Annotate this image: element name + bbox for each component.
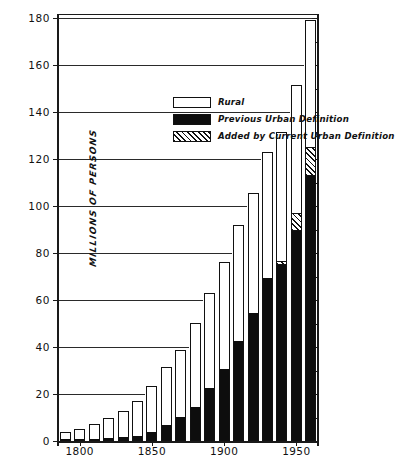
bar-segment-previous-urban-1860: [162, 425, 171, 440]
bar-1960: [305, 20, 316, 441]
gridline-100: [58, 206, 247, 207]
y-tick-label-40: 40: [35, 341, 50, 353]
bar-segment-previous-urban-1840: [133, 436, 142, 440]
bar-1830: [118, 411, 129, 441]
bar-segment-previous-urban-1960: [306, 176, 315, 440]
previous-urban-swatch: [173, 114, 211, 125]
bar-segment-previous-urban-1810: [90, 439, 99, 440]
y-axis-title: MILLIONS OF PERSONS: [88, 128, 98, 267]
legend-item-added-urban: Added by Current Urban Definition: [173, 129, 345, 143]
gridline-180: [58, 18, 318, 19]
y-tick-mark-140: [53, 112, 59, 113]
x-tick-mark-1800: [80, 442, 81, 446]
bar-segment-previous-urban-1790: [61, 439, 70, 440]
y-tick-mark-0: [53, 441, 59, 442]
bar-segment-previous-urban-1920: [249, 313, 258, 440]
rural-swatch: [173, 97, 211, 108]
bar-segment-previous-urban-1900: [220, 369, 229, 440]
bar-segment-previous-urban-1850: [147, 432, 156, 440]
bar-segment-added-urban-1950: [292, 213, 301, 231]
bar-1910: [233, 225, 244, 441]
bar-1920: [248, 193, 259, 441]
bar-1810: [89, 424, 100, 441]
x-tick-label-1900: 1900: [210, 445, 238, 457]
x-tick-mark-1850: [152, 442, 153, 446]
bar-1800: [74, 429, 85, 441]
x-tick-mark-1950: [296, 442, 297, 446]
added-urban-swatch: [173, 131, 211, 142]
y-tick-label-0: 0: [43, 435, 50, 447]
bar-segment-previous-urban-1820: [104, 438, 113, 440]
chart-legend: Rural Previous Urban Definition Added by…: [173, 95, 345, 146]
bar-segment-previous-urban-1890: [205, 388, 214, 440]
x-tick-label-1800: 1800: [65, 445, 93, 457]
plot-area: 020406080100120140160180 180018501900195…: [58, 18, 318, 442]
y-tick-label-120: 120: [28, 153, 50, 165]
y-tick-mark-20: [53, 394, 59, 395]
legend-item-rural: Rural: [173, 95, 345, 109]
top-axis-line: [57, 14, 318, 15]
gridline-60: [58, 300, 203, 301]
bar-1790: [60, 432, 71, 441]
bar-segment-previous-urban-1830: [119, 437, 128, 440]
bar-segment-previous-urban-1870: [176, 417, 185, 440]
y-tick-mark-100: [53, 206, 59, 207]
y-tick-mark-180: [53, 18, 59, 19]
y-tick-mark-60: [53, 300, 59, 301]
gridline-160: [58, 65, 304, 66]
bar-segment-added-urban-1940: [277, 261, 286, 265]
bar-segment-added-urban-1960: [306, 147, 315, 175]
bar-segment-previous-urban-1800: [75, 439, 84, 440]
bar-segment-previous-urban-1930: [263, 278, 272, 440]
y-tick-label-140: 140: [28, 106, 50, 118]
y-tick-label-60: 60: [35, 294, 50, 306]
legend-item-previous-urban: Previous Urban Definition: [173, 112, 345, 126]
bar-segment-previous-urban-1950: [292, 231, 301, 440]
legend-label-rural: Rural: [218, 97, 245, 107]
bar-segment-previous-urban-1880: [191, 407, 200, 440]
x-tick-label-1950: 1950: [282, 445, 310, 457]
y-tick-label-160: 160: [28, 59, 50, 71]
bar-1930: [262, 152, 273, 441]
y-tick-label-80: 80: [35, 247, 50, 259]
y-tick-label-180: 180: [28, 12, 50, 24]
gridline-80: [58, 253, 232, 254]
gridline-40: [58, 347, 189, 348]
bar-1870: [175, 350, 186, 441]
gridline-20: [58, 394, 145, 395]
bar-segment-previous-urban-1910: [234, 341, 243, 440]
legend-label-added-urban: Added by Current Urban Definition: [218, 131, 395, 141]
bar-1880: [190, 323, 201, 441]
x-tick-mark-1900: [224, 442, 225, 446]
bar-1890: [204, 293, 215, 441]
bar-1840: [132, 401, 143, 441]
y-tick-mark-160: [53, 65, 59, 66]
y-tick-label-20: 20: [35, 388, 50, 400]
bar-1900: [219, 262, 230, 441]
legend-label-previous-urban: Previous Urban Definition: [218, 114, 349, 124]
x-tick-label-1850: 1850: [138, 445, 166, 457]
bar-1820: [103, 418, 114, 441]
bar-1940: [276, 132, 287, 441]
x-axis-line: [57, 441, 318, 443]
y-tick-mark-120: [53, 159, 59, 160]
bar-segment-previous-urban-1940: [277, 265, 286, 440]
y-tick-mark-80: [53, 253, 59, 254]
bar-1850: [146, 386, 157, 441]
y-axis-line: [57, 14, 59, 446]
y-tick-mark-40: [53, 347, 59, 348]
y-tick-label-100: 100: [28, 200, 50, 212]
bar-1860: [161, 367, 172, 441]
